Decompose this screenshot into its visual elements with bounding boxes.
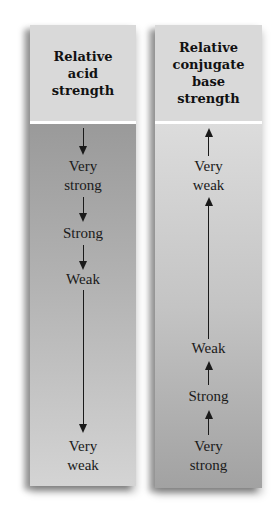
acid-strength-column: Relative acid strength Very strong Stron… [30,25,136,486]
conjugate-base-strength-column: Relative conjugate base strength Very we… [155,25,262,488]
base-label-very-weak: Very weak [155,157,262,195]
conjugate-base-strength-title: Relative conjugate base strength [173,39,245,107]
conjugate-base-strength-header: Relative conjugate base strength [155,25,262,121]
conjugate-base-strength-scale: Very weak Weak Strong Very strong [155,124,262,488]
acid-strength-scale: Very strong Strong Weak Very weak [30,124,136,486]
acid-label-very-strong: Very strong [30,157,136,195]
acid-label-weak: Weak [30,270,136,289]
acid-strength-header: Relative acid strength [30,25,136,121]
base-label-very-strong: Very strong [155,437,262,475]
acid-strength-title: Relative acid strength [52,48,114,99]
acid-label-strong: Strong [30,224,136,243]
base-label-strong: Strong [155,387,262,406]
base-label-weak: Weak [155,339,262,358]
acid-label-very-weak: Very weak [30,437,136,475]
